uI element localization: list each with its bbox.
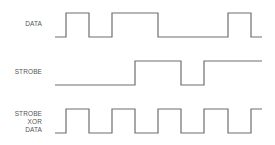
timing-diagram: DATA STROBE STROBE XOR DATA <box>0 0 275 145</box>
waveform-data <box>55 13 262 37</box>
waveform-strobe <box>55 61 262 85</box>
waveform-strobe-xor-data <box>55 109 262 133</box>
waveforms <box>0 0 275 145</box>
